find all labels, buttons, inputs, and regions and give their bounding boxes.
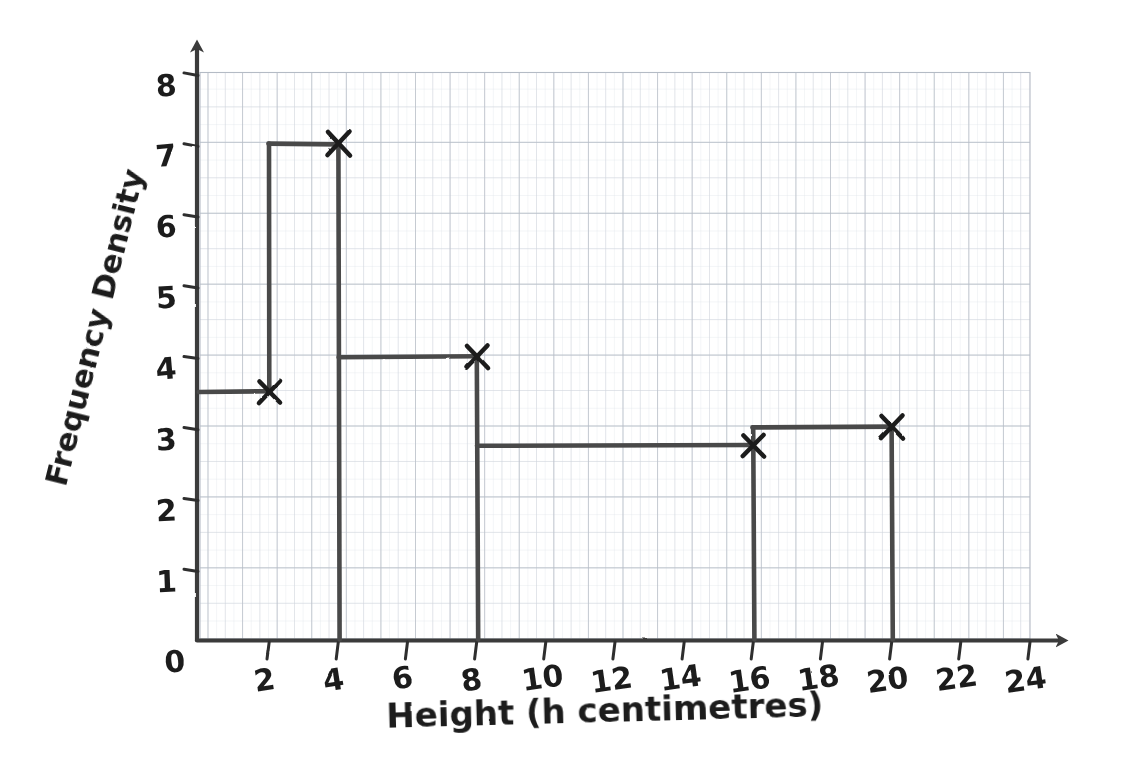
y-axis-title: Frequency Density [38,165,152,489]
bar-8-16-top [477,445,754,446]
bar-16-20-top [752,427,892,428]
bar-riser-x4 [338,144,339,640]
y-tick-label-5: 5 [155,279,178,315]
y-tick-label-8: 8 [155,67,178,103]
bar-2-4-top [268,144,339,145]
y-tick-label-0: 0 [163,643,187,680]
x-axis-ticks [267,642,1030,659]
y-tick-label-3: 3 [155,421,178,457]
y-tick-label-1: 1 [156,564,178,600]
x-tick-label-22: 22 [933,657,979,697]
histogram-figure: 8 7 6 5 4 3 2 1 0 2 4 6 8 10 12 14 16 18… [0,0,1123,781]
bar-riser-x20 [892,427,893,640]
x-tick-label-24: 24 [1002,659,1048,699]
y-tick-label-4: 4 [154,350,178,387]
bar-riser-x8 [477,357,478,640]
bar-riser-x16 [753,428,754,640]
bar-4-8-top [339,356,478,357]
bar-0-2-top [199,391,270,392]
x-axis-title: Height (h centimetres) [386,684,824,735]
histogram-canvas: 8 7 6 5 4 3 2 1 0 2 4 6 8 10 12 14 16 18… [0,0,1123,781]
x-tick-label-2: 2 [251,661,277,699]
grid-area [200,73,1030,641]
y-tick-label-6: 6 [155,208,178,244]
y-tick-label-7: 7 [154,137,178,174]
x-tick-label-6: 6 [389,659,415,697]
y-tick-label-2: 2 [155,492,178,528]
y-tick-labels: 8 7 6 5 4 3 2 1 0 [154,67,187,680]
x-tick-label-4: 4 [320,661,346,699]
x-tick-label-20: 20 [864,659,910,699]
